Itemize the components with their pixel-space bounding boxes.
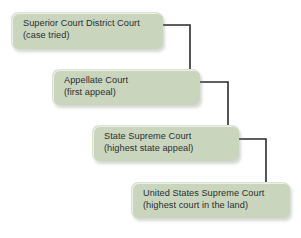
connector-superior-to-appellate: [163, 25, 190, 69]
connector-state-to-us: [239, 139, 266, 182]
node-state-supreme-court-subtitle: (highest state appeal): [104, 143, 239, 155]
node-superior-district-court[interactable]: Superior Court District Court (case trie…: [11, 12, 163, 49]
node-united-states-supreme-court-title: United States Supreme Court: [143, 188, 290, 200]
node-united-states-supreme-court[interactable]: United States Supreme Court (highest cou…: [131, 182, 290, 218]
node-state-supreme-court[interactable]: State Supreme Court (highest state appea…: [92, 125, 239, 161]
node-appellate-court-title: Appellate Court: [64, 75, 200, 87]
connector-appellate-to-state: [200, 82, 228, 125]
node-superior-district-court-title: Superior Court District Court: [23, 18, 163, 30]
node-appellate-court[interactable]: Appellate Court (first appeal): [52, 69, 200, 105]
node-appellate-court-subtitle: (first appeal): [64, 87, 200, 99]
node-united-states-supreme-court-subtitle: (highest court in the land): [143, 200, 290, 212]
node-state-supreme-court-title: State Supreme Court: [104, 131, 239, 143]
node-superior-district-court-subtitle: (case tried): [23, 30, 163, 42]
court-hierarchy-diagram: Superior Court District Court (case trie…: [0, 0, 301, 238]
